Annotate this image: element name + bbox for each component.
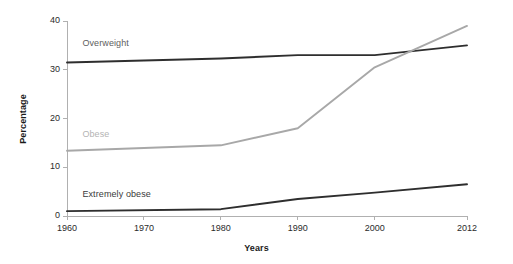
axis-lines <box>67 21 467 216</box>
y-tick-label: 20 <box>36 113 60 123</box>
x-tick-label: 1980 <box>201 223 241 233</box>
y-axis-title: Percentage <box>18 59 28 179</box>
x-axis-title: Years <box>0 243 513 253</box>
x-tick-label: 1970 <box>124 223 164 233</box>
chart-figure: Percentage Years 010203040 1960197019801… <box>0 0 513 264</box>
x-tick-label: 1960 <box>47 223 87 233</box>
y-tick-label: 0 <box>36 210 60 220</box>
y-tick-label: 10 <box>36 161 60 171</box>
series-label-obese: Obese <box>82 129 109 139</box>
series-lines <box>67 26 467 211</box>
x-tick-label: 2012 <box>447 223 487 233</box>
x-tick-label: 2000 <box>355 223 395 233</box>
series-label-overweight: Overweight <box>82 38 129 48</box>
y-tick-label: 30 <box>36 64 60 74</box>
y-tick-label: 40 <box>36 15 60 25</box>
x-tick-label: 1990 <box>278 223 318 233</box>
series-label-extremely-obese: Extremely obese <box>82 189 151 199</box>
